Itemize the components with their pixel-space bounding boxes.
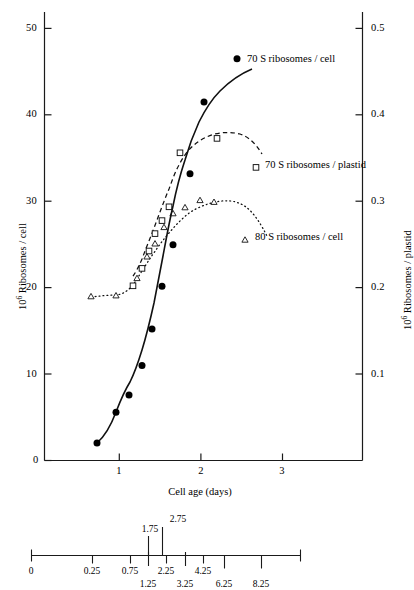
- left-tick-label-30: 30: [26, 196, 37, 207]
- series-label-80s-cell: 80 S ribosomes / cell: [255, 232, 343, 243]
- marker-triangle: [113, 293, 119, 298]
- ruler-label-3-25: 3.25: [177, 580, 194, 590]
- y-axis-right-title-prefix: 10: [402, 320, 413, 331]
- marker-square: [177, 150, 183, 156]
- right-tick-label-0-1: 0.1: [371, 369, 385, 380]
- series-label-70s-plastid: 70 S ribosomes / plastid: [265, 160, 366, 171]
- marker-square: [130, 283, 136, 289]
- left-tick-label-40: 40: [26, 109, 37, 120]
- ruler-label-2-25: 2.25: [158, 567, 175, 577]
- series-80s-cell: [88, 197, 268, 299]
- marker-square: [146, 248, 152, 254]
- bottom-tick-label-3: 3: [279, 466, 284, 477]
- ruler-label-0-25: 0.25: [84, 567, 101, 577]
- series-80s-cell-markers: [88, 197, 248, 299]
- right-tick-label-0-4: 0.4: [371, 109, 385, 120]
- marker-circle: [170, 241, 177, 248]
- marker-circle: [113, 409, 120, 416]
- series-70s-plastid-markers: [130, 136, 259, 289]
- y-axis-right-title-suffix: Ribosomes / plastid: [402, 230, 413, 315]
- right-tick-label-0-2: 0.2: [371, 282, 385, 293]
- marker-square: [166, 204, 172, 210]
- marker-triangle: [152, 241, 158, 246]
- marker-circle: [159, 283, 166, 290]
- y-axis-left-title-prefix: 10: [17, 300, 28, 311]
- series-label-70s-cell: 70 S ribosomes / cell: [247, 54, 335, 65]
- marker-square: [253, 165, 259, 171]
- ruler-label-8-25: 8.25: [253, 580, 270, 590]
- marker-square: [152, 231, 158, 237]
- x-axis-title: Cell age (days): [168, 487, 232, 498]
- right-tick-label-0-3: 0.3: [371, 196, 385, 207]
- left-tick-label-10: 10: [26, 369, 37, 380]
- ruler-raised-label-1-75: 1.75: [142, 525, 159, 535]
- ruler-raised-label-2-75: 2.75: [170, 515, 187, 525]
- series-70s-cell-markers: [94, 55, 241, 446]
- marker-circle: [126, 392, 133, 399]
- y-axis-left-title-exponent: 6: [15, 296, 24, 300]
- y-axis-right-title: 106 Ribosomes / plastid: [403, 230, 414, 330]
- ruler-label-4-25: 4.25: [195, 567, 212, 577]
- marker-circle: [201, 99, 208, 106]
- bottom-ruler: [32, 527, 301, 569]
- series-70s-cell-line: [97, 69, 252, 443]
- ruler-label-0: 0: [29, 567, 34, 577]
- series-70s-plastid: [130, 133, 262, 289]
- ruler-label-0-75: 0.75: [122, 567, 139, 577]
- ruler-label-1-25: 1.25: [140, 580, 157, 590]
- marker-square: [139, 266, 145, 272]
- ruler-label-6-25: 6.25: [216, 580, 233, 590]
- bottom-tick-label-2: 2: [198, 466, 203, 477]
- y-axis-left-title-suffix: Ribosomes / cell: [17, 223, 28, 296]
- bottom-tick-label-1: 1: [116, 466, 121, 477]
- left-tick-label-0: 0: [33, 455, 38, 466]
- marker-circle: [94, 440, 101, 447]
- left-tick-label-50: 50: [26, 23, 37, 34]
- right-tick-label-0-5: 0.5: [371, 23, 385, 34]
- marker-circle: [234, 55, 241, 62]
- marker-triangle: [144, 254, 150, 259]
- marker-square: [214, 136, 220, 142]
- marker-triangle: [211, 199, 217, 204]
- marker-square: [159, 218, 165, 224]
- marker-triangle: [182, 204, 188, 209]
- left-axis-ticks: [45, 28, 52, 460]
- marker-triangle: [88, 293, 94, 298]
- right-axis-ticks: [356, 28, 363, 374]
- y-axis-right-title-exponent: 6: [400, 316, 409, 320]
- marker-circle: [149, 326, 156, 333]
- marker-triangle: [242, 237, 248, 242]
- bottom-axis-ticks: [119, 454, 282, 461]
- series-70s-cell: [94, 55, 253, 446]
- marker-circle: [139, 362, 146, 369]
- marker-circle: [187, 170, 194, 177]
- marker-triangle: [197, 197, 203, 202]
- y-axis-left-title: 106 Ribosomes / cell: [18, 223, 29, 310]
- marker-triangle: [161, 224, 167, 229]
- series-80s-cell-line: [91, 201, 268, 297]
